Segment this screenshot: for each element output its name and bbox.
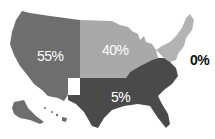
label-west: 55% bbox=[37, 49, 64, 63]
label-northeast: 0% bbox=[190, 53, 209, 67]
us-regions-map bbox=[0, 0, 215, 139]
region-northeast bbox=[156, 14, 194, 62]
label-midwest: 40% bbox=[102, 43, 129, 57]
region-alaska bbox=[12, 100, 44, 124]
label-south: 5% bbox=[111, 90, 130, 104]
region-hawaii bbox=[44, 107, 67, 122]
